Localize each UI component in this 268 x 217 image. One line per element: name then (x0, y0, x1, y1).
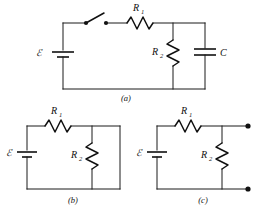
resistor-r1-a (127, 17, 153, 29)
r2-label-b: R (70, 149, 77, 160)
resistor-r1-c (175, 120, 201, 132)
resistor-r1-b (45, 120, 71, 132)
capacitor-label-a: C (220, 47, 227, 58)
resistor-r2-b (86, 143, 98, 169)
output-terminal-bottom-c (245, 186, 250, 191)
caption-b: (b) (68, 195, 78, 205)
emf-label-b: ℰ (6, 148, 13, 158)
switch-blade-a[interactable] (86, 13, 104, 23)
r1-label-b: R (50, 105, 57, 116)
r1-label-a: R (132, 2, 139, 13)
r2-subscript-b: 2 (79, 155, 83, 162)
panel-a: ℰ R 2 C R 1 (a) (36, 2, 227, 103)
resistor-r2-c (216, 143, 228, 169)
switch-hinge-dot-a (84, 21, 88, 25)
panel-b: R 1 ℰ R 2 (b) (6, 105, 120, 205)
r1-subscript-b: 1 (59, 111, 62, 118)
caption-a: (a) (121, 93, 131, 103)
r2-subscript-a: 2 (160, 52, 164, 59)
r2-subscript-c: 2 (209, 155, 213, 162)
r2-label-c: R (200, 149, 207, 160)
r1-label-c: R (180, 105, 187, 116)
circuit-svg-canvas: ℰ R 2 C R 1 (a) (0, 0, 268, 217)
emf-label-c: ℰ (136, 148, 143, 158)
caption-c: (c) (198, 195, 208, 205)
r2-label-a: R (151, 46, 158, 57)
output-terminal-top-c (245, 123, 250, 128)
resistor-r2-a (167, 40, 179, 66)
panel-c: R 1 ℰ R 2 (c) (136, 105, 251, 205)
emf-label-a: ℰ (36, 48, 43, 58)
r1-subscript-a: 1 (141, 8, 144, 15)
circuit-figure: ℰ R 2 C R 1 (a) (0, 0, 268, 217)
r1-subscript-c: 1 (189, 111, 192, 118)
